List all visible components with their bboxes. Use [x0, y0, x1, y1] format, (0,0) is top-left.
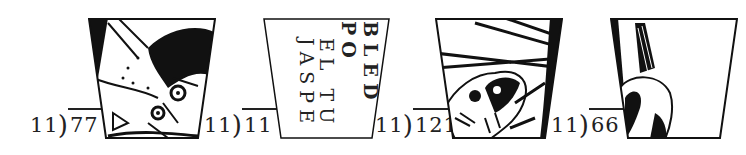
cipher-text-line-2: EL TU: [316, 38, 338, 129]
picture-panel-1: [88, 18, 216, 139]
picture-panel-4: [610, 18, 738, 139]
divisor: 11: [204, 113, 233, 137]
divisor: 11: [551, 113, 580, 137]
divisor: 11: [375, 113, 404, 137]
picture-panel-3: [435, 18, 563, 139]
picture-panel-2: BLED PO EL TU JASPE: [263, 18, 391, 139]
divisor: 11: [30, 113, 59, 137]
cipher-text-line-3: JASPE: [296, 38, 318, 129]
